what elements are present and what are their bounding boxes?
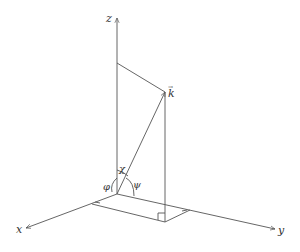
k-vector <box>117 92 165 194</box>
x-axis <box>26 194 117 228</box>
y-tick-mark <box>182 210 187 211</box>
phi-angle-label: φ <box>103 181 110 192</box>
y-axis-label: y <box>277 224 285 237</box>
x-tick-mark <box>95 202 100 203</box>
psi-angle-label: ψ <box>133 179 141 190</box>
y-axis <box>117 194 275 229</box>
x-axis-label: x <box>16 223 23 236</box>
x-plane-projection-line <box>92 204 165 222</box>
z-projection-line <box>117 63 165 92</box>
chi-angle-label: χ <box>118 163 126 174</box>
right-angle-box <box>158 213 165 220</box>
vector-angle-diagram: z x y k → χ φ ψ <box>0 0 300 252</box>
y-plane-projection-line <box>165 210 190 222</box>
z-axis-label: z <box>105 12 112 25</box>
phi-arc <box>112 178 117 192</box>
k-vector-arrow-mark: → <box>168 83 173 90</box>
